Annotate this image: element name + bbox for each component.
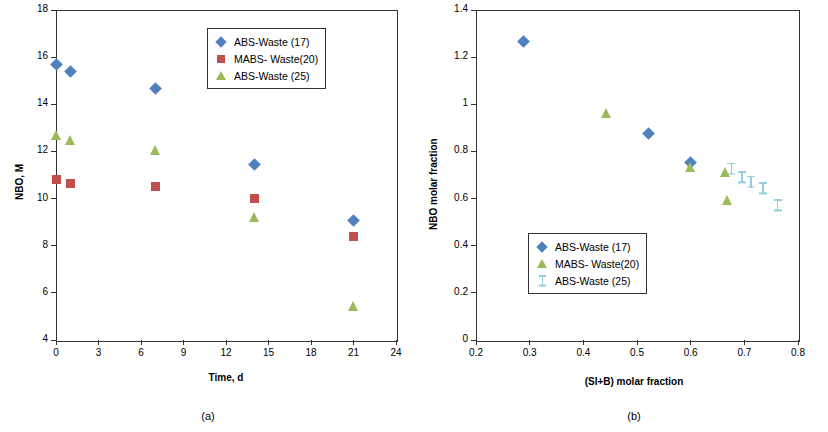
data-point <box>349 232 358 241</box>
data-point <box>774 199 782 211</box>
y-tick <box>471 10 476 11</box>
legend-label: MABS- Waste(20) <box>234 53 318 65</box>
y-tick <box>51 104 56 105</box>
x-tick <box>141 340 142 345</box>
y-tick <box>51 292 56 293</box>
y-tick <box>51 340 56 341</box>
y-tick-label: 10 <box>16 192 48 203</box>
x-tick-label: 15 <box>253 347 285 358</box>
y-tick-label: 0 <box>436 333 468 344</box>
x-tick <box>396 340 397 345</box>
y-tick <box>51 198 56 199</box>
x-tick-label: 0.8 <box>782 347 814 358</box>
x-axis-label-b: (SI+B) molar fraction <box>414 376 828 387</box>
data-point <box>759 182 767 194</box>
panel-b-caption: (b) <box>604 410 664 422</box>
x-tick <box>183 340 184 345</box>
data-point <box>65 135 75 145</box>
x-tick <box>798 340 799 345</box>
legend-item-abs-waste-25: ABS-Waste (25) <box>213 67 318 84</box>
x-tick <box>583 340 584 345</box>
x-tick <box>744 340 745 345</box>
y-tick <box>471 198 476 199</box>
x-tick-label: 0.3 <box>514 347 546 358</box>
y-tick <box>51 245 56 246</box>
data-point <box>150 145 160 155</box>
legend-label: ABS-Waste (17) <box>234 36 309 48</box>
data-point <box>685 162 695 172</box>
x-tick <box>353 340 354 345</box>
panel-a-caption: (a) <box>178 410 238 422</box>
x-tick <box>98 340 99 345</box>
diamond-icon <box>213 38 229 46</box>
y-tick-label: 6 <box>16 286 48 297</box>
y-tick-label: 0.2 <box>436 286 468 297</box>
legend-item-mabs-waste-20: MABS- Waste(20) <box>213 50 318 67</box>
diamond-icon <box>534 243 550 251</box>
y-tick <box>471 245 476 246</box>
y-tick-label: 12 <box>16 144 48 155</box>
x-tick <box>637 340 638 345</box>
x-tick <box>311 340 312 345</box>
x-tick-label: 6 <box>125 347 157 358</box>
legend-label: ABS-Waste (17) <box>555 241 630 253</box>
y-tick <box>471 340 476 341</box>
y-tick-label: 1.2 <box>436 50 468 61</box>
chart-panel-b: NBO molar fraction (SI+B) molar fraction… <box>414 0 828 432</box>
x-tick-label: 0.6 <box>675 347 707 358</box>
y-tick <box>471 104 476 105</box>
x-tick-label: 0.2 <box>460 347 492 358</box>
x-tick-label: 0.4 <box>567 347 599 358</box>
x-tick <box>476 340 477 345</box>
x-tick-label: 18 <box>295 347 327 358</box>
y-tick-label: 0.6 <box>436 192 468 203</box>
data-point <box>151 182 160 191</box>
legend-item-abs-waste-25: ABS-Waste (25) <box>534 272 639 289</box>
y-tick-label: 16 <box>16 50 48 61</box>
x-tick-label: 21 <box>338 347 370 358</box>
square-icon <box>213 55 229 63</box>
y-tick <box>471 151 476 152</box>
x-tick-label: 0.5 <box>621 347 653 358</box>
data-point <box>51 130 61 140</box>
x-tick-label: 9 <box>168 347 200 358</box>
legend-label: ABS-Waste (25) <box>234 70 309 82</box>
triangle-icon <box>213 71 229 80</box>
y-tick <box>471 57 476 58</box>
y-tick-label: 18 <box>16 3 48 14</box>
x-tick <box>690 340 691 345</box>
x-tick-label: 0 <box>40 347 72 358</box>
x-tick <box>268 340 269 345</box>
y-tick-label: 8 <box>16 239 48 250</box>
data-point <box>738 171 746 183</box>
y-tick-label: 1.4 <box>436 3 468 14</box>
data-point <box>249 212 259 222</box>
data-point <box>601 108 611 118</box>
data-point <box>727 163 735 175</box>
x-axis-label-a: Time, d <box>0 372 452 383</box>
data-point <box>52 175 61 184</box>
i-bar-icon <box>534 275 550 286</box>
data-point <box>747 176 755 188</box>
x-tick <box>56 340 57 345</box>
data-point <box>250 194 259 203</box>
y-tick-label: 0.8 <box>436 144 468 155</box>
triangle-icon <box>534 259 550 268</box>
x-tick-label: 3 <box>83 347 115 358</box>
data-point <box>348 301 358 311</box>
y-tick-label: 4 <box>16 333 48 344</box>
x-tick <box>226 340 227 345</box>
data-point <box>66 179 75 188</box>
y-tick-label: 1 <box>436 97 468 108</box>
legend-a: ABS-Waste (17) MABS- Waste(20) ABS-Waste… <box>207 28 326 89</box>
x-tick-label: 12 <box>210 347 242 358</box>
legend-label: ABS-Waste (25) <box>555 275 630 287</box>
x-tick-label: 24 <box>380 347 412 358</box>
figure-container: NBO, M Time, d (a) ABS-Waste (17) MABS- … <box>0 0 828 432</box>
y-tick-label: 0.4 <box>436 239 468 250</box>
legend-label: MABS- Waste(20) <box>555 258 639 270</box>
y-tick <box>51 151 56 152</box>
y-tick <box>51 10 56 11</box>
legend-item-abs-waste-17: ABS-Waste (17) <box>534 238 639 255</box>
legend-item-mabs-waste-20: MABS- Waste(20) <box>534 255 639 272</box>
